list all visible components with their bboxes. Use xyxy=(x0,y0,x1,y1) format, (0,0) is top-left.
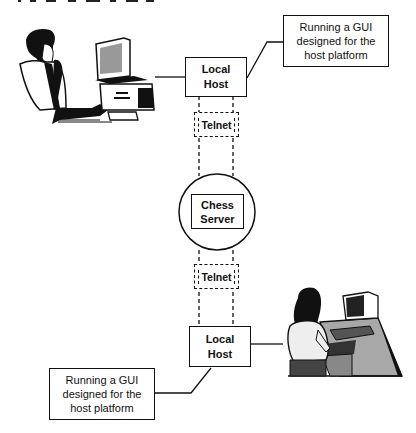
man-at-computer-illustration xyxy=(20,29,154,124)
bottom-telnet-label: Telnet xyxy=(198,270,234,284)
top-local-host-label-1: Local xyxy=(202,62,231,77)
caption-remnant xyxy=(18,0,154,2)
bottom-local-host-label-2: Host xyxy=(206,347,235,362)
bottom-local-host-label-1: Local xyxy=(206,332,235,347)
bottom-callout-line-3: host platform xyxy=(63,401,142,415)
top-telnet-label: Telnet xyxy=(198,118,234,132)
chess-server-label-2: Server xyxy=(200,212,234,226)
bottom-telnet-box: Telnet xyxy=(194,264,239,289)
top-callout-line-1: Running a GUI xyxy=(297,20,376,34)
top-callout-line-3: host platform xyxy=(297,48,376,62)
top-telnet-box: Telnet xyxy=(194,112,239,137)
bottom-callout-line-1: Running a GUI xyxy=(63,373,142,387)
top-local-host-label-2: Host xyxy=(202,77,231,92)
bottom-callout-box: Running a GUI designed for the host plat… xyxy=(49,368,155,420)
connector-bottom-host-to-callout xyxy=(155,368,211,393)
bottom-local-host-box: Local Host xyxy=(189,326,251,367)
bottom-callout-line-2: designed for the xyxy=(63,387,142,401)
chess-server-box: Chess Server xyxy=(191,194,244,229)
connector-top-host-to-callout xyxy=(247,42,283,78)
top-local-host-box: Local Host xyxy=(185,57,247,97)
top-callout-box: Running a GUI designed for the host plat… xyxy=(283,15,389,67)
chess-server-label-1: Chess xyxy=(200,198,234,212)
woman-at-workstation-illustration xyxy=(288,287,402,376)
top-callout-line-2: designed for the xyxy=(297,34,376,48)
